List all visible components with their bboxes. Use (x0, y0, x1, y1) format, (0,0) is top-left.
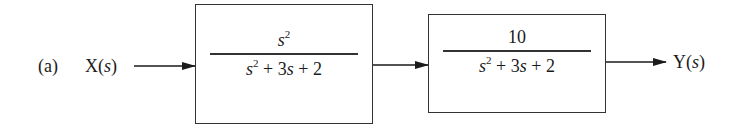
output-signal-name: Y (673, 52, 686, 72)
transfer-block-g2: 10 s2 + 3s + 2 (428, 14, 606, 113)
g2-numerator: 10 (508, 27, 526, 47)
g1-numerator: s2 (278, 30, 291, 50)
g1-den-rest: + 3 (259, 59, 287, 79)
input-signal-name: X (85, 56, 98, 76)
part-label-text: (a) (38, 56, 58, 76)
g1-den-var2: s (287, 59, 294, 79)
g1-den-tail: + 2 (294, 59, 322, 79)
g2-denominator: s2 + 3s + 2 (479, 56, 555, 76)
part-label: (a) (38, 57, 58, 75)
input-signal-arg: s (104, 56, 111, 76)
g1-num-var: s (278, 30, 285, 50)
g1-transfer-function: s2 s2 + 3s + 2 (210, 30, 358, 79)
g2-num-text: 10 (508, 27, 526, 47)
output-signal-label: Y(s) (673, 53, 705, 71)
g1-denominator: s2 + 3s + 2 (246, 59, 322, 79)
g2-transfer-function: 10 s2 + 3s + 2 (443, 27, 591, 76)
g2-den-var2: s (520, 56, 527, 76)
g2-fraction-bar (443, 50, 591, 52)
input-signal-label: X(s) (85, 57, 117, 75)
g2-den-tail: + 2 (527, 56, 555, 76)
output-signal-arg: s (692, 52, 699, 72)
g2-den-rest: + 3 (492, 56, 520, 76)
transfer-block-g1: s2 s2 + 3s + 2 (195, 4, 373, 124)
g1-num-exp: 2 (285, 28, 291, 40)
g1-fraction-bar (210, 53, 358, 55)
